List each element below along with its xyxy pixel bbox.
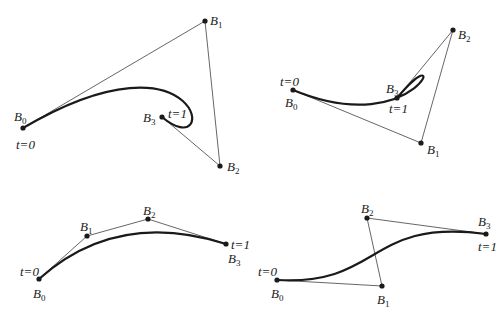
control-point-b0: [20, 125, 25, 130]
label-b2: B2: [458, 28, 470, 44]
bezier-diagram: B0t=0B1B2B3t=1t=0B0B1B2B3t=1t=0B0B1B2t=1…: [0, 0, 502, 323]
label-b0: B0: [285, 96, 297, 112]
label-param: t=1: [478, 240, 497, 253]
panel-top-right: [290, 27, 455, 145]
label-param: t=1: [231, 238, 250, 251]
label-b2: B2: [361, 202, 373, 218]
control-polygon: [277, 218, 486, 286]
label-b3: B3: [228, 252, 240, 268]
bezier-curve: [23, 88, 192, 128]
panel-bottom-right: [274, 215, 488, 288]
label-b0: B0: [33, 287, 45, 303]
control-point-b1: [379, 283, 384, 288]
control-point-b1: [202, 18, 207, 23]
label-param: t=0: [16, 138, 35, 151]
label-b3: B3: [143, 111, 155, 127]
control-point-b3: [483, 231, 488, 236]
control-point-b1: [418, 140, 423, 145]
label-b0: B0: [271, 287, 283, 303]
label-b3: B3: [478, 215, 490, 231]
bezier-canvas: [0, 0, 502, 323]
control-point-b3: [223, 241, 228, 246]
label-param: t=0: [20, 265, 39, 278]
label-param: t=0: [258, 265, 277, 278]
panel-top-left: [20, 18, 222, 168]
control-polygon: [293, 30, 453, 143]
label-b1: B1: [377, 293, 389, 309]
bezier-curve: [39, 232, 226, 279]
label-param: t=1: [389, 102, 408, 115]
label-b2: B2: [143, 204, 155, 220]
label-b2: B2: [227, 160, 239, 176]
control-point-b3: [159, 114, 164, 119]
control-polygon: [39, 219, 226, 279]
control-point-b2: [217, 163, 222, 168]
label-b0: B0: [14, 110, 26, 126]
control-point-b2: [450, 27, 455, 32]
label-param: t=1: [168, 107, 187, 120]
panel-bottom-left: [36, 216, 228, 281]
label-b1: B1: [427, 143, 439, 159]
label-param: t=0: [280, 75, 299, 88]
control-polygon: [23, 21, 220, 166]
bezier-curve: [277, 232, 486, 281]
label-b1: B1: [210, 14, 222, 30]
label-b3: B3: [386, 82, 398, 98]
label-b1: B1: [80, 220, 92, 236]
